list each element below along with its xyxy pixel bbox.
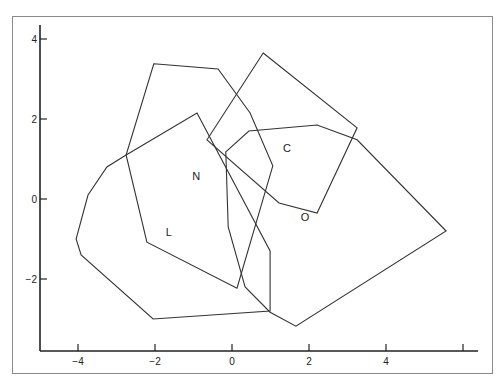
label-c: C xyxy=(283,142,291,154)
x-tick-label: −2 xyxy=(149,356,161,367)
label-l: L xyxy=(166,226,172,238)
y-tick-label: −2 xyxy=(26,274,38,285)
x-tick-label: 0 xyxy=(229,356,235,367)
x-tick-label: 4 xyxy=(383,356,389,367)
polygon-c xyxy=(207,53,357,213)
polygons xyxy=(76,53,446,326)
y-tick-label: 4 xyxy=(31,34,37,45)
label-o: O xyxy=(301,211,310,223)
x-tick-label: 2 xyxy=(306,356,312,367)
chart: −4−2024420−2 NLCO xyxy=(0,0,502,385)
y-tick-label: 0 xyxy=(31,194,37,205)
polygon-o xyxy=(226,125,446,326)
axes: −4−2024420−2 xyxy=(26,25,478,367)
label-n: N xyxy=(192,170,200,182)
y-tick-label: 2 xyxy=(31,114,37,125)
polygon-l xyxy=(76,113,270,319)
x-tick-label: −4 xyxy=(72,356,84,367)
